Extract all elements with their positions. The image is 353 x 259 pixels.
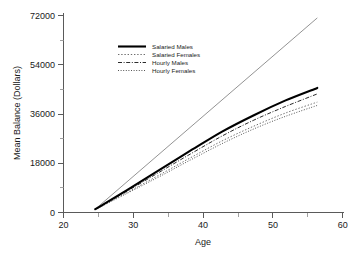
y-axis-title: Mean Balance (Dollars) xyxy=(12,66,22,160)
y-tick-label-72000: 72000 xyxy=(30,11,55,21)
x-tick-label-60: 60 xyxy=(338,220,348,230)
legend-label-salaried-males: Salaried Males xyxy=(152,43,193,50)
chart-figure: 72000 54000 36000 18000 0 20 30 40 50 60… xyxy=(0,0,353,259)
series-line-salaried-males xyxy=(95,88,317,209)
legend-label-hourly-males: Hourly Males xyxy=(152,59,188,66)
line-chart: 72000 54000 36000 18000 0 20 30 40 50 60… xyxy=(0,0,353,259)
legend-label-hourly-females: Hourly Females xyxy=(152,67,195,74)
x-axis-major-ticks xyxy=(64,213,343,219)
x-tick-label-50: 50 xyxy=(268,220,278,230)
series-line-salaried-females xyxy=(95,102,317,209)
series-line-hourly-females xyxy=(95,105,317,209)
y-tick-label-18000: 18000 xyxy=(30,158,55,168)
x-tick-label-30: 30 xyxy=(128,220,138,230)
x-axis-title: Age xyxy=(195,237,211,247)
y-tick-label-54000: 54000 xyxy=(30,60,55,70)
chart-legend: Salaried Males Salaried Females Hourly M… xyxy=(118,43,200,74)
y-tick-label-0: 0 xyxy=(50,208,55,218)
x-tick-label-20: 20 xyxy=(58,220,68,230)
legend-label-salaried-females: Salaried Females xyxy=(152,51,200,58)
y-axis-major-ticks xyxy=(58,16,64,213)
y-tick-label-36000: 36000 xyxy=(30,109,55,119)
x-tick-label-40: 40 xyxy=(198,220,208,230)
